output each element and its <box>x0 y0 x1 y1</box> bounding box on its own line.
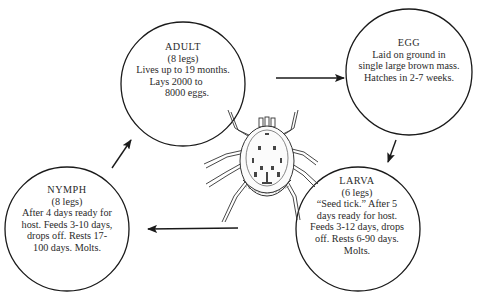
stage-larva: LARVA (6 legs) “Seed tick.” After 5 days… <box>295 175 419 256</box>
arrow-egg-to-larva <box>388 140 396 162</box>
stage-desc-line: drops off. Rests 17- <box>5 230 129 242</box>
stage-desc-line: Lays 2000 to <box>121 76 245 88</box>
stage-desc-line: Feeds 3-12 days, drops <box>295 221 419 233</box>
arrow-nymph-to-adult <box>112 140 131 168</box>
stage-adult: ADULT (8 legs) Lives up to 19 months. La… <box>121 41 245 99</box>
stage-desc-line: host. Feeds 3-10 days, <box>5 219 129 231</box>
stage-desc-line: After 4 days ready for <box>5 207 129 219</box>
stage-legs: (8 legs) <box>121 53 245 65</box>
stage-legs: (8 legs) <box>5 196 129 208</box>
stage-desc-line: Molts. <box>295 245 419 257</box>
stage-nymph: NYMPH (8 legs) After 4 days ready for ho… <box>5 184 129 254</box>
stage-desc-line: 100 days. Molts. <box>5 242 129 254</box>
stage-egg: EGG Laid on ground in single large brown… <box>347 37 471 83</box>
stage-desc-line: 8000 eggs. <box>121 87 245 99</box>
arrow-larva-to-nymph <box>148 228 238 229</box>
stage-title: LARVA <box>295 175 419 187</box>
stage-title: EGG <box>347 37 471 49</box>
stage-desc-line: Hatches in 2-7 weeks. <box>347 72 471 84</box>
stage-desc-line: “Seed tick.” After 5 <box>295 198 419 210</box>
stage-desc-line: off. Rests 6-90 days. <box>295 233 419 245</box>
stage-desc-line: days ready for host. <box>295 210 419 222</box>
stage-title: NYMPH <box>5 184 129 196</box>
stage-desc-line: Lives up to 19 months. <box>121 64 245 76</box>
stage-legs: (6 legs) <box>295 187 419 199</box>
stage-title: ADULT <box>121 41 245 53</box>
stage-desc-line: single large brown mass. <box>347 60 471 72</box>
stage-desc-line: Laid on ground in <box>347 49 471 61</box>
